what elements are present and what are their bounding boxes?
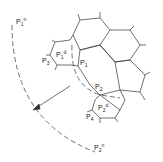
label-p4: P4 [86,113,94,122]
diagram-canvas: P1n P3 P1d P1 P2 P2d P4 P2n [0,0,163,162]
label-p1: P1 [80,59,88,68]
label-p1d: P1d [56,49,66,60]
label-p2n: P2n [94,142,104,153]
label-p1n: P1n [16,16,26,27]
label-p3: P3 [42,57,50,66]
label-p2d: P2d [98,102,108,113]
labels: P1n P3 P1d P1 P2 P2d P4 P2n [16,16,108,153]
arrow [33,86,70,110]
label-p2: P2 [95,83,103,92]
